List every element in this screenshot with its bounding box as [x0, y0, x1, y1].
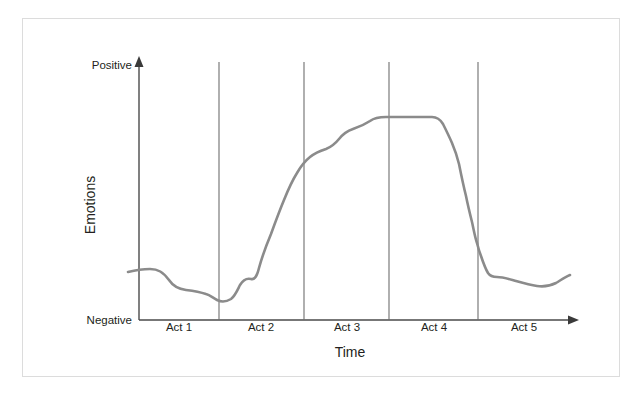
x-axis-arrow-icon	[568, 316, 579, 325]
act-label-1: Act 1	[166, 321, 192, 333]
y-axis-arrow-icon	[135, 56, 144, 67]
y-axis-top-label: Positive	[92, 59, 132, 71]
act-label-4: Act 4	[421, 321, 448, 333]
y-axis-bottom-label: Negative	[87, 314, 132, 326]
y-axis-title: Emotions	[82, 176, 98, 234]
act-label-3: Act 3	[334, 321, 360, 333]
emotion-arc-curve	[128, 117, 570, 301]
act-label-2: Act 2	[248, 321, 274, 333]
x-axis-title: Time	[335, 344, 366, 360]
act-label-5: Act 5	[511, 321, 537, 333]
emotion-arc-chart: Positive Negative Emotions Time Act 1 Ac…	[0, 0, 644, 395]
